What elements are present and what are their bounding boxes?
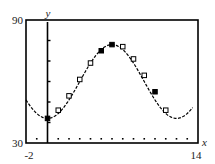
data-point-marker	[164, 108, 169, 113]
x-tick-dot	[57, 138, 59, 140]
data-point-marker	[121, 44, 126, 49]
data-point-marker	[99, 49, 104, 54]
x-max-label: 14	[191, 149, 203, 161]
x-tick-dot	[111, 138, 113, 140]
x-tick-dot	[68, 138, 70, 140]
x-min-label: -2	[24, 149, 33, 161]
x-tick-dot	[186, 138, 188, 140]
data-points	[45, 42, 168, 120]
y-axis-name: y	[45, 7, 51, 19]
chart: 90 30 -2 14 x y	[0, 0, 215, 164]
x-tick-dot	[133, 138, 135, 140]
data-point-marker	[56, 108, 61, 113]
x-tick-dot	[165, 138, 167, 140]
x-tick-dot	[90, 138, 92, 140]
data-point-marker	[142, 73, 147, 78]
data-point-marker	[45, 116, 50, 121]
x-tick-dot	[143, 138, 145, 140]
x-tick-dot	[154, 138, 156, 140]
x-tick-dot	[122, 138, 124, 140]
y-max-label: 90	[12, 14, 24, 26]
x-tick-dot	[176, 138, 178, 140]
data-point-marker	[110, 42, 115, 47]
plot-frame	[26, 20, 198, 143]
data-point-marker	[153, 90, 158, 95]
data-point-marker	[67, 94, 72, 99]
model-curve	[26, 45, 193, 119]
x-tick-dot	[36, 138, 38, 140]
data-point-marker	[131, 57, 136, 62]
x-tick-dot	[100, 138, 102, 140]
x-tick-dot	[79, 138, 81, 140]
x-axis-dots	[36, 138, 188, 140]
x-axis-name: x	[201, 136, 207, 148]
data-point-marker	[88, 61, 93, 66]
data-point-marker	[78, 77, 83, 82]
y-min-label: 30	[12, 137, 24, 149]
